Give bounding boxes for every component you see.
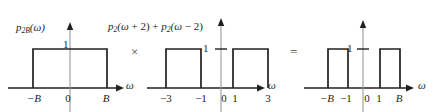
left-tick-zero: 0 <box>62 93 74 104</box>
left-x-axis-arrowhead <box>116 85 124 92</box>
right-tick-b: B <box>393 93 405 104</box>
middle-x-axis-arrowhead <box>257 85 265 92</box>
right-amplitude-label: 1 <box>347 43 353 54</box>
signal-multiplication-figure: p2B(ω) 1 −B 0 B ω × p2(ω + 2) + p2(ω − 2… <box>0 0 440 112</box>
middle-y-axis-arrowhead <box>218 18 224 26</box>
middle-tick-minus-1: −1 <box>192 93 210 104</box>
right-tick-zero: 0 <box>362 93 372 104</box>
right-pulse-right-trace <box>380 49 400 88</box>
multiply-operator: × <box>131 45 138 58</box>
left-tick-b: B <box>100 93 112 104</box>
plot-right-result: 1 −B −1 0 1 B ω <box>302 0 440 112</box>
right-x-axis-label: ω <box>418 80 426 91</box>
middle-tick-zero: 0 <box>219 93 229 104</box>
plot-left-title: p2B(ω) <box>16 22 45 33</box>
plot-left-p2b: p2B(ω) 1 −B 0 B ω <box>0 0 140 112</box>
right-tick-minus-1: −1 <box>337 93 355 104</box>
right-tick-one: 1 <box>374 93 384 104</box>
right-tick-minus-b: −B <box>318 93 336 104</box>
right-y-axis-arrowhead <box>360 20 366 28</box>
middle-pulse-left-trace <box>166 49 201 88</box>
right-pulse-left-trace <box>328 49 348 88</box>
plot-middle-title: p2(ω + 2) + p2(ω − 2) <box>108 21 203 32</box>
middle-tick-minus-3: −3 <box>157 93 175 104</box>
right-x-axis-arrowhead <box>406 85 414 92</box>
plot-middle-shifted-pulses: p2(ω + 2) + p2(ω − 2) 1 −3 −1 0 1 3 ω <box>145 0 290 112</box>
left-tick-minus-b: −B <box>22 93 46 104</box>
middle-pulse-right-trace <box>233 49 268 88</box>
left-y-axis-arrowhead <box>67 22 73 30</box>
left-amplitude-label: 1 <box>63 39 69 50</box>
middle-tick-one: 1 <box>230 93 240 104</box>
middle-amplitude-label: 1 <box>203 43 209 54</box>
middle-tick-three: 3 <box>263 93 273 104</box>
middle-x-axis-label: ω <box>268 80 276 91</box>
left-x-axis-label: ω <box>126 80 134 91</box>
equals-operator: = <box>290 45 297 58</box>
